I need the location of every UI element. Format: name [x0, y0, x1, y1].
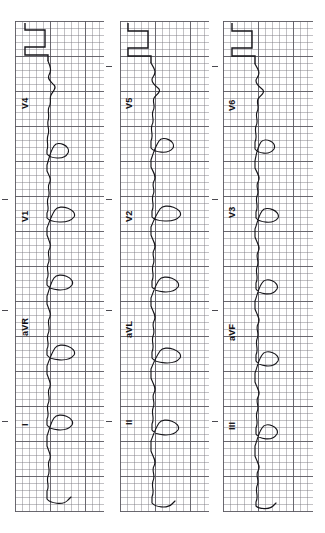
- edge-tick-left-2: [106, 199, 112, 200]
- edge-tick-far-2: [2, 310, 8, 311]
- ecg-sheet: V4 V1 aVR I V5 V2 aVL II V6: [0, 0, 325, 533]
- edge-tick-right-2: [212, 199, 218, 200]
- edge-tick-left-3: [106, 310, 112, 311]
- waveform-v5: [151, 63, 181, 507]
- lead-label-iii: III: [228, 422, 237, 430]
- lead-label-v1: V1: [21, 211, 30, 222]
- lead-label-v3: V3: [228, 207, 237, 218]
- edge-tick-left-4: [106, 421, 112, 422]
- lead-label-v6: V6: [228, 100, 237, 111]
- ecg-trace-layer-column-1: [15, 21, 104, 512]
- lead-label-avf: aVF: [228, 324, 237, 341]
- ecg-column-1: V4 V1 aVR I: [15, 21, 104, 512]
- lead-label-v5: V5: [125, 98, 134, 109]
- ecg-trace-layer-column-3: [223, 21, 313, 512]
- lead-label-v4: V4: [21, 98, 30, 109]
- lead-label-ii: II: [125, 420, 134, 425]
- lead-label-v2: V2: [125, 211, 134, 222]
- lead-label-avr: aVR: [21, 318, 30, 336]
- ecg-trace-layer-column-2: [120, 21, 209, 512]
- edge-tick-far-3: [2, 421, 8, 422]
- calibration-pulse-column-1: [25, 23, 48, 61]
- calibration-pulse-column-2: [128, 23, 151, 63]
- lead-label-avl: aVL: [125, 321, 134, 338]
- calibration-pulse-column-3: [232, 23, 255, 64]
- lead-label-i: I: [21, 423, 30, 426]
- waveform-v4: [47, 61, 75, 503]
- edge-tick-right-1: [212, 66, 218, 67]
- edge-tick-right-4: [212, 421, 218, 422]
- edge-tick-left-1: [106, 66, 112, 67]
- edge-tick-right-3: [212, 310, 218, 311]
- ecg-column-3: V6 V3 aVF III: [223, 21, 313, 512]
- edge-tick-far-1: [2, 199, 8, 200]
- waveform-v6: [255, 64, 278, 509]
- ecg-column-2: V5 V2 aVL II: [120, 21, 209, 512]
